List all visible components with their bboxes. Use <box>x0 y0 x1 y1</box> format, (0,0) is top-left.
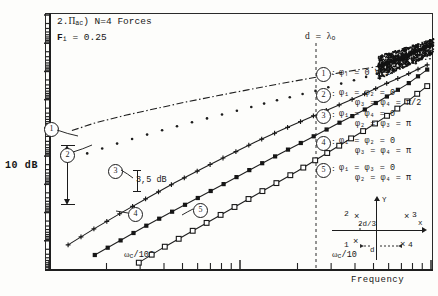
legend-row-1: 1 : φᵢ = 0 ∀ i <box>316 66 434 87</box>
legend-sep-1: : <box>331 68 336 77</box>
legend-text-3a: φ₁ = φ₄ = 0 <box>339 109 395 119</box>
legend-sep-2: : <box>331 89 336 98</box>
legend-row-2: 2 : φ₁ = φ₂ = 0 φ₃ = φ₄ = π/2 <box>316 87 434 108</box>
legend-text-3b: φ₂ = φ₃ = π <box>355 119 411 129</box>
legend-sep-4: : <box>331 137 336 146</box>
legend-marker-2: 2 <box>316 88 331 103</box>
legend-text-2a: φ₁ = φ₂ = 0 <box>339 88 395 98</box>
legend-text-5b: φ₂ = φ₄ = π <box>355 173 411 183</box>
legend-text-5a: φ₁ = φ₃ = 0 <box>339 163 395 173</box>
legend-marker-1: 1 <box>316 67 331 82</box>
legend-text-2b: φ₃ = φ₄ = π/2 <box>355 98 421 108</box>
legend-sep-5: : <box>331 164 336 173</box>
legend-marker-5: 5 <box>316 163 331 178</box>
legend-marker-4: 4 <box>316 136 331 151</box>
inset-dimension-lines <box>330 196 430 264</box>
legend-marker-3: 3 <box>316 109 331 124</box>
legend-text-1: φᵢ = 0 ∀ i <box>339 67 390 78</box>
legend-row-3: 3 : φ₁ = φ₄ = 0 φ₂ = φ₃ = π <box>316 108 434 135</box>
legend-text-4b: φ₃ = φ₄ = π <box>355 146 411 156</box>
legend: 1 : φᵢ = 0 ∀ i 2 : φ₁ = φ₂ = 0 φ₃ = φ₄ =… <box>316 66 434 189</box>
legend-row-5: 5 : φ₁ = φ₃ = 0 φ₂ = φ₄ = π <box>316 162 434 189</box>
figure-root: 2.Πac) N=4 Forces Fi = 0.25 10 dB d = λo… <box>0 0 438 296</box>
legend-row-4: 4 : φ₁ = φ₂ = 0 φ₃ = φ₄ = π <box>316 135 434 162</box>
legend-sep-3: : <box>331 110 336 119</box>
legend-text-4a: φ₁ = φ₂ = 0 <box>339 136 395 146</box>
inset-geometry-diagram: x Y 2 × × 3 1 × × 4 2d/3 d <box>330 196 430 264</box>
